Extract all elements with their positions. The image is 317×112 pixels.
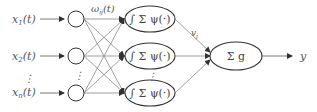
input-arrows: [40, 19, 64, 93]
input-neuron-2: [68, 48, 84, 64]
input-neuron-ellipsis: ⋮: [74, 70, 84, 81]
input-label-1: x1(t): [12, 13, 36, 27]
input-layer: [68, 11, 84, 101]
hidden-ellipsis: ⋮: [147, 71, 157, 82]
hidden-connections: [84, 19, 124, 93]
input-neuron-1: [68, 11, 84, 27]
svg-text:x1(t): x1(t): [12, 13, 36, 27]
input-ellipsis: ⋮: [24, 73, 34, 84]
input-label-n: xn(t): [12, 86, 36, 100]
output-label: y: [299, 50, 307, 63]
neural-network-diagram: x1(t) x2(t) ⋮ xn(t) ⋮: [0, 0, 317, 112]
input-label-2: x2(t): [12, 50, 36, 64]
output-weight-label: vj: [191, 28, 198, 40]
hidden-node-n-label: ∫ Σ ψ(·): [129, 87, 170, 100]
input-weight-label: ωij(t): [91, 3, 115, 16]
hidden-node-1-label: ∫ Σ ψ(·): [129, 13, 170, 26]
output-node-label: Σ g: [227, 50, 245, 63]
svg-text:x2(t): x2(t): [12, 50, 36, 64]
svg-text:xn(t): xn(t): [12, 86, 36, 100]
input-neuron-n: [68, 85, 84, 101]
diagram-svg: x1(t) x2(t) ⋮ xn(t) ⋮: [0, 0, 317, 112]
hidden-node-2-label: ∫ Σ ψ(·): [129, 50, 170, 63]
